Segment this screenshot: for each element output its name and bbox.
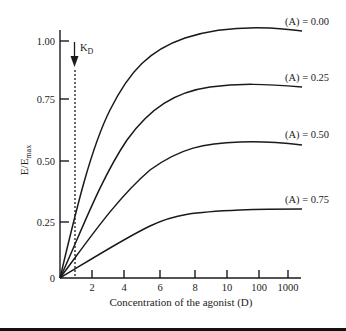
svg-text:E/Emax: E/Emax bbox=[18, 145, 33, 175]
x-axis-label: Concentration of the agonist (D) bbox=[110, 296, 253, 309]
axes bbox=[60, 30, 301, 278]
y-axis-label: E/Emax bbox=[18, 145, 33, 175]
x-tick-label: 1000 bbox=[278, 282, 299, 293]
y-tick-label: 0 bbox=[50, 273, 55, 284]
curve-label-a-0-00: (A) = 0.00 bbox=[285, 16, 329, 28]
dose-response-chart: 0 0.25 0.50 0.75 1.00 2 4 6 8 10 100 100… bbox=[0, 0, 346, 331]
y-ticks bbox=[60, 41, 69, 222]
y-tick-label: 1.00 bbox=[37, 36, 55, 47]
x-tick-label: 10 bbox=[222, 282, 233, 293]
curves bbox=[60, 28, 302, 278]
x-tick-label: 6 bbox=[157, 282, 162, 293]
x-tick-label: 2 bbox=[89, 282, 94, 293]
x-tick-labels: 2 4 6 8 10 100 1000 bbox=[89, 282, 298, 293]
curve-label-a-0-50: (A) = 0.50 bbox=[285, 129, 329, 141]
y-tick-label: 0.25 bbox=[37, 217, 55, 228]
curve-a-0-75 bbox=[60, 209, 302, 278]
curve-label-a-0-25: (A) = 0.25 bbox=[285, 72, 329, 84]
curve-a-0-25 bbox=[60, 84, 302, 278]
arrow-down-icon bbox=[71, 56, 79, 67]
kd-label: KD bbox=[80, 42, 94, 56]
y-tick-label: 0.50 bbox=[37, 156, 55, 167]
x-ticks bbox=[92, 270, 288, 278]
y-tick-label: 0.75 bbox=[37, 94, 55, 105]
curve-labels: (A) = 0.00 (A) = 0.25 (A) = 0.50 (A) = 0… bbox=[285, 16, 329, 206]
x-tick-label: 4 bbox=[121, 282, 127, 293]
x-tick-label: 100 bbox=[251, 282, 267, 293]
x-tick-label: 8 bbox=[192, 282, 197, 293]
y-tick-labels: 0 0.25 0.50 0.75 1.00 bbox=[37, 36, 55, 284]
curve-label-a-0-75: (A) = 0.75 bbox=[285, 194, 329, 206]
